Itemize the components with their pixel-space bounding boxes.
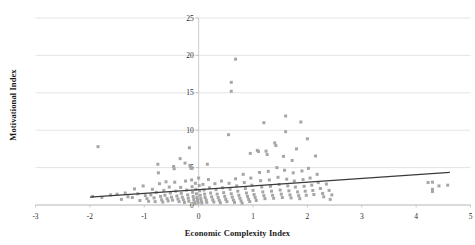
data-point <box>238 197 241 200</box>
data-point <box>297 194 300 197</box>
data-point <box>149 193 152 196</box>
data-point <box>173 167 176 170</box>
data-point <box>179 157 182 160</box>
data-point <box>234 177 237 180</box>
data-point <box>203 193 206 196</box>
data-point <box>265 150 268 153</box>
x-tick-label--3: -3 <box>32 212 38 221</box>
data-point <box>192 195 195 198</box>
data-point <box>290 196 293 199</box>
data-point <box>183 201 186 204</box>
y-tick-label-20: 20 <box>186 51 194 60</box>
data-point <box>120 198 123 201</box>
data-point <box>243 181 246 184</box>
data-point <box>248 200 251 203</box>
data-point <box>309 177 312 180</box>
data-point <box>266 153 269 156</box>
data-point <box>186 193 189 196</box>
x-tick-label-4: 4 <box>414 212 418 221</box>
data-point <box>178 200 181 203</box>
data-point <box>287 189 290 192</box>
scatter-chart-figure: 0510152025 -3-2-1012345 Motivational Ind… <box>0 0 475 245</box>
data-point <box>199 194 202 197</box>
data-points-group <box>91 58 449 205</box>
data-point <box>180 192 183 195</box>
data-point <box>97 145 100 148</box>
x-tick-label-1: 1 <box>251 212 255 221</box>
data-point <box>168 186 171 189</box>
data-point <box>138 199 141 202</box>
y-tick-label-10: 10 <box>186 126 194 135</box>
data-point <box>230 90 233 93</box>
data-point <box>242 173 245 176</box>
data-point <box>165 180 168 183</box>
data-point <box>171 199 174 202</box>
data-point <box>314 155 317 158</box>
data-point <box>295 147 298 150</box>
data-point <box>282 155 285 158</box>
data-point <box>207 178 210 181</box>
data-point <box>431 181 434 184</box>
data-point <box>170 196 173 199</box>
data-point <box>284 114 287 117</box>
data-point <box>210 195 213 198</box>
data-point <box>279 189 282 192</box>
y-tick-label-25: 25 <box>186 14 194 23</box>
data-point <box>321 192 324 195</box>
data-point <box>181 196 184 199</box>
data-point <box>257 150 260 153</box>
data-point <box>223 195 226 198</box>
data-point <box>252 189 255 192</box>
data-point <box>302 178 305 181</box>
data-point <box>283 169 286 172</box>
data-point <box>190 178 193 181</box>
data-point <box>275 166 278 169</box>
data-point <box>188 146 191 149</box>
data-point <box>263 197 266 200</box>
data-point <box>307 167 310 170</box>
data-point <box>298 197 301 200</box>
data-point <box>205 201 208 204</box>
data-point <box>198 184 201 187</box>
data-point <box>246 195 249 198</box>
data-point <box>201 183 204 186</box>
data-point <box>142 184 145 187</box>
y-tick-label-15: 15 <box>186 88 194 97</box>
data-point <box>151 188 154 191</box>
data-point <box>179 186 182 189</box>
data-point <box>147 200 150 203</box>
data-point <box>270 190 273 193</box>
data-point <box>209 192 212 195</box>
data-point <box>296 190 299 193</box>
data-point <box>285 178 288 181</box>
x-tick-label-0: 0 <box>197 212 201 221</box>
data-point <box>253 193 256 196</box>
data-point <box>216 193 219 196</box>
data-point <box>268 178 271 181</box>
data-point <box>144 194 147 197</box>
data-point <box>175 195 178 198</box>
data-point <box>187 197 190 200</box>
data-point <box>236 190 239 193</box>
chart-canvas: 0510152025 -3-2-1012345 <box>0 0 475 245</box>
data-point <box>249 177 252 180</box>
data-point <box>258 171 261 174</box>
data-point <box>217 196 220 199</box>
data-point <box>244 187 247 190</box>
data-point <box>245 192 248 195</box>
data-point <box>281 196 284 199</box>
data-point <box>300 169 303 172</box>
data-point <box>159 195 162 198</box>
data-point <box>191 185 194 188</box>
data-point <box>261 190 264 193</box>
data-point <box>241 202 244 205</box>
data-point <box>194 182 197 185</box>
data-point <box>176 198 179 201</box>
axis-lines-group <box>36 18 471 208</box>
data-point <box>157 171 160 174</box>
data-point <box>197 201 200 204</box>
data-point <box>156 163 159 166</box>
x-tick-label--1: -1 <box>141 212 147 221</box>
data-point <box>325 183 328 186</box>
data-point <box>154 200 157 203</box>
